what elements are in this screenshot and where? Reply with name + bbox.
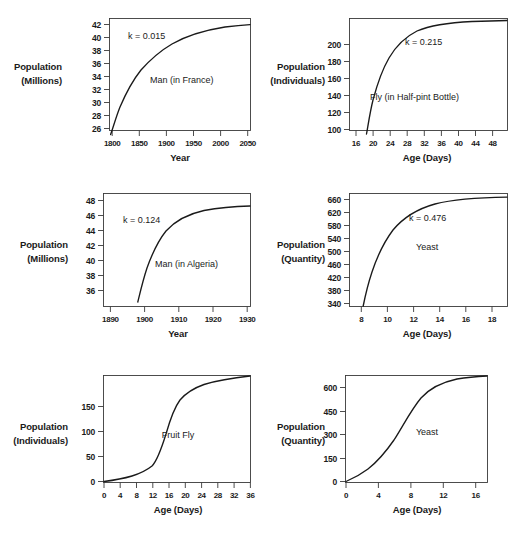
- y-tick-label: 620: [327, 208, 341, 218]
- x-tick-label: 0: [102, 491, 107, 500]
- y-tick-label: 180: [327, 57, 341, 67]
- y-tick-group: [344, 45, 350, 130]
- x-tick-label: 36: [437, 139, 446, 148]
- x-tick-label: 2000: [212, 139, 229, 148]
- x-tick-label: 12: [149, 491, 158, 500]
- y-tick-label: 42: [86, 241, 96, 251]
- x-tick-label: 16: [352, 139, 361, 148]
- y-axis-label-line2: (Millions): [21, 75, 62, 86]
- chart-panel-man-in-algeria: Population (Millions) 48 46 44 42 40 38 …: [0, 180, 257, 360]
- y-tick-label: 28: [92, 111, 102, 121]
- k-annotation: k = 0.015: [128, 31, 165, 41]
- x-axis-label: Age (Days): [393, 504, 442, 515]
- series-label: Man (in France): [150, 75, 214, 85]
- y-tick-group: [98, 201, 104, 291]
- y-tick-label: 340: [327, 299, 341, 309]
- x-tick-label: 1910: [170, 315, 187, 324]
- x-tick-label: 24: [386, 139, 395, 148]
- x-tick-group: [356, 131, 493, 137]
- chart-svg-yeast-k476: Population (Quantity) 660 620 580 540 50…: [257, 180, 514, 360]
- y-tick-group: [340, 388, 346, 482]
- y-tick-label: 660: [327, 195, 341, 205]
- y-tick-label: 600: [323, 383, 337, 393]
- x-tick-label: 20: [369, 139, 378, 148]
- chart-svg-yeast-logistic: Population (Quantity) 600 450 300 150 0 …: [257, 362, 514, 542]
- x-tick-label: 8: [134, 491, 139, 500]
- x-tick-label: 32: [230, 491, 239, 500]
- x-tick-label: 48: [488, 139, 497, 148]
- y-axis-label-line2: (Quantity): [281, 253, 325, 264]
- y-tick-label: 46: [86, 211, 96, 221]
- x-tick-group: [346, 483, 476, 489]
- series-label: Yeast: [416, 427, 439, 437]
- y-tick-label: 540: [327, 234, 341, 244]
- x-tick-label: 40: [454, 139, 463, 148]
- x-tick-label: 18: [488, 315, 497, 324]
- y-tick-label: 0: [90, 477, 95, 487]
- y-tick-label: 44: [86, 226, 96, 236]
- x-tick-label: 1800: [104, 139, 121, 148]
- y-axis-label-line1: Population: [20, 421, 68, 432]
- y-tick-label: 420: [327, 273, 341, 283]
- y-tick-label: 48: [86, 196, 96, 206]
- x-tick-label: 24: [197, 491, 206, 500]
- x-tick-label: 36: [246, 491, 255, 500]
- x-axis-label: Year: [170, 152, 190, 163]
- y-tick-label: 500: [327, 247, 341, 257]
- x-tick-group: [104, 483, 250, 489]
- y-tick-label: 300: [323, 430, 337, 440]
- x-tick-label: 28: [403, 139, 412, 148]
- k-annotation: k = 0.124: [123, 215, 160, 225]
- plot-frame: [104, 194, 251, 307]
- y-tick-label: 100: [327, 125, 341, 135]
- y-axis-label-line1: Population: [20, 239, 68, 250]
- y-tick-label: 38: [92, 46, 102, 56]
- plot-frame: [104, 376, 251, 483]
- x-tick-label: 1900: [136, 315, 153, 324]
- x-tick-label: 12: [439, 491, 448, 500]
- y-tick-label: 200: [327, 40, 341, 50]
- k-annotation: k = 0.215: [405, 37, 442, 47]
- chart-panel-man-in-france: Population (Millions) 42 40 38 36 34 32 …: [0, 0, 257, 180]
- chart-panel-yeast-logistic: Population (Quantity) 600 450 300 150 0 …: [257, 362, 514, 542]
- y-tick-group: [104, 25, 110, 129]
- chart-panel-fruit-fly: Population (Individuals) 150 100 50 0 0 …: [0, 362, 257, 542]
- series-label: Man (in Algeria): [155, 259, 218, 269]
- x-tick-label: 1930: [239, 315, 256, 324]
- y-tick-label: 36: [86, 286, 96, 296]
- x-tick-label: 44: [471, 139, 480, 148]
- x-tick-label: 4: [376, 491, 381, 500]
- x-axis-label: Age (Days): [154, 504, 203, 515]
- x-tick-group: [112, 131, 248, 137]
- x-tick-label: 1900: [158, 139, 175, 148]
- x-tick-label: 1890: [102, 315, 119, 324]
- y-tick-label: 460: [327, 260, 341, 270]
- y-axis-label-line2: (Individuals): [270, 75, 325, 86]
- data-curve: [104, 376, 250, 482]
- x-tick-label: 10: [383, 315, 392, 324]
- y-tick-label: 450: [323, 407, 337, 417]
- y-tick-label: 30: [92, 98, 102, 108]
- chart-panel-fly-half-pint-bottle: Population (Individuals) 200 180 160 140…: [257, 0, 514, 180]
- chart-svg-man-in-france: Population (Millions) 42 40 38 36 34 32 …: [0, 0, 257, 180]
- x-tick-label: 16: [165, 491, 174, 500]
- y-axis-label-line2: (Quantity): [281, 435, 325, 446]
- y-tick-label: 150: [323, 454, 337, 464]
- x-tick-label: 16: [472, 491, 481, 500]
- y-tick-label: 50: [86, 452, 96, 462]
- y-axis-label-line1: Population: [277, 239, 325, 250]
- x-axis-label: Age (Days): [403, 152, 452, 163]
- y-axis-label-line1: Population: [277, 421, 325, 432]
- y-tick-label: 140: [327, 91, 341, 101]
- y-axis-label-line2: (Millions): [27, 253, 68, 264]
- y-tick-label: 32: [92, 85, 102, 95]
- x-tick-label: 32: [420, 139, 429, 148]
- y-tick-label: 34: [92, 72, 102, 82]
- x-tick-group: [361, 307, 492, 313]
- x-tick-label: 8: [359, 315, 364, 324]
- y-tick-label: 26: [92, 124, 102, 134]
- y-tick-label: 120: [327, 108, 341, 118]
- x-tick-label: 1920: [205, 315, 222, 324]
- x-tick-label: 14: [436, 315, 445, 324]
- y-tick-label: 36: [92, 59, 102, 69]
